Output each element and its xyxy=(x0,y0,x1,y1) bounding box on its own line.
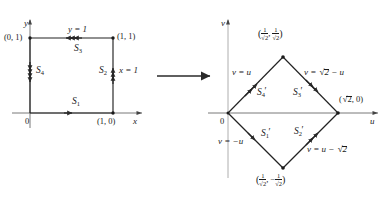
edge-label-S3-subscript: 3 xyxy=(79,47,82,54)
transformation-figure: y x 0 (0, 1) (1, 1) (1, 0) y = 1 x = 1 S… xyxy=(0,0,392,197)
edge-label-S4-subscript: 4 xyxy=(41,69,44,76)
edge-equation-y-equals-1: y = 1 xyxy=(68,25,87,34)
vertex-label-0-1: (0, 1) xyxy=(4,33,22,42)
right-axis-label-u: u xyxy=(370,117,375,126)
fraction-one-over-root-two-b: 1√2 xyxy=(272,27,279,42)
edge-label-S3: S3 xyxy=(74,44,82,54)
vertex-origin xyxy=(227,112,230,115)
vertex-top xyxy=(281,55,285,59)
diamond-direction-arrows xyxy=(245,80,318,145)
vertex-label-1-1: (1, 1) xyxy=(117,32,135,41)
edge-label-S1: S1 xyxy=(72,97,80,107)
right-origin-label: 0 xyxy=(220,117,224,126)
edge-equation-v-equals-root2-minus-u: v = √2 − u xyxy=(304,68,344,77)
vertex-label-bottom: (1√2, −1√2) xyxy=(256,173,285,188)
paren-close: ) xyxy=(279,28,282,39)
edge-label-S2: S2 xyxy=(99,66,107,76)
figure-canvas xyxy=(0,0,392,197)
eq2-pre: v = u − xyxy=(307,144,337,154)
edge-equation-x-equals-1: x = 1 xyxy=(119,66,138,75)
edge-label-S4-prime: S4′ xyxy=(257,88,267,98)
left-origin-label: 0 xyxy=(25,117,29,126)
paren-close-bottom: ) xyxy=(282,174,285,185)
edge-label-S3-prime: S3′ xyxy=(293,88,303,98)
edge-label-S4: S4 xyxy=(36,66,44,76)
left-axis-label-y: y xyxy=(24,19,28,28)
eq3-post: − u xyxy=(329,67,344,77)
edge-label-S1-subscript: 1 xyxy=(77,100,80,107)
coord-comma: , xyxy=(268,28,270,38)
edge-equation-v-equals-u-minus-root2: v = u − √2 xyxy=(307,145,347,154)
coord-comma-bottom: , xyxy=(266,174,268,184)
vertex-bottom xyxy=(281,166,285,170)
coord-rest-right: , 0) xyxy=(352,94,363,104)
edge-label-S3p-prime: ′ xyxy=(301,86,303,96)
edge-label-S2p-prime: ′ xyxy=(302,125,304,135)
fraction-one-over-root-two-c: 1√2 xyxy=(259,173,266,188)
vertex-1-1 xyxy=(111,36,114,39)
edge-label-S4p-prime: ′ xyxy=(265,86,267,96)
vertex-1-0 xyxy=(111,111,114,114)
right-axis-label-v: v xyxy=(221,19,225,28)
radical-sqrt-two-vertex: √2 xyxy=(342,95,352,104)
vertex-label-top: (1√2, 1√2) xyxy=(258,27,283,42)
edge-equation-v-equals-minus-u: v = −u xyxy=(218,137,243,146)
edge-label-S2-prime: S2′ xyxy=(294,127,304,137)
fraction-one-over-root-two-a: 1√2 xyxy=(261,27,268,42)
vertex-right xyxy=(336,111,340,115)
left-axis-label-x: x xyxy=(133,117,137,126)
edge-label-S1p-prime: ′ xyxy=(269,127,271,137)
radical-sqrt-two-eq2: √2 xyxy=(337,145,347,154)
edge-label-S2-subscript: 2 xyxy=(104,69,107,76)
edge-label-S1-prime: S1′ xyxy=(261,129,271,139)
vertex-label-1-0: (1, 0) xyxy=(97,117,115,126)
fraction-one-over-root-two-d: 1√2 xyxy=(275,173,282,188)
vertex-0-1 xyxy=(28,36,31,39)
edge-equation-v-equals-u: v = u xyxy=(232,68,251,77)
radical-sqrt-two-eq3: √2 xyxy=(319,68,329,77)
eq3-pre: v = xyxy=(304,67,319,77)
vertex-label-right: (√2, 0) xyxy=(339,95,363,104)
